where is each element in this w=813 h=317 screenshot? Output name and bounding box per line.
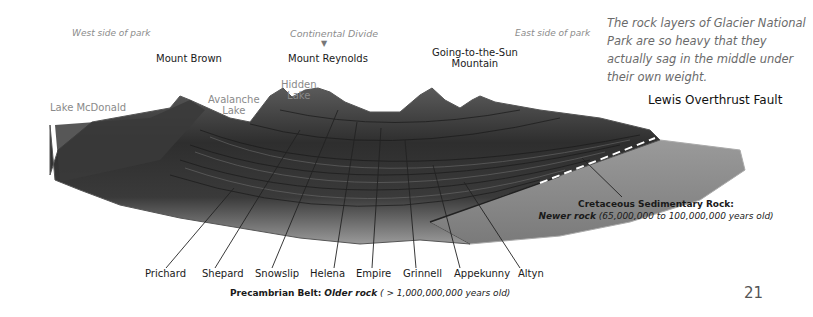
going-to-the-sun-label: Going-to-the-Sun Mountain <box>432 47 518 69</box>
layer-label-helena: Helena <box>310 268 345 279</box>
page-number: 21 <box>744 284 763 302</box>
continental-divide-label: Continental Divide <box>290 28 378 39</box>
cretaceous-description: Cretaceous Sedimentary Rock: Newer rock … <box>526 198 786 222</box>
mount-brown-label: Mount Brown <box>156 53 222 64</box>
avalanche-lake-label: Avalanche Lake <box>208 94 260 116</box>
mount-reynolds-label: Mount Reynolds <box>288 53 368 64</box>
layer-label-altyn: Altyn <box>518 268 544 279</box>
layer-label-grinnell: Grinnell <box>403 268 442 279</box>
west-side-label: West side of park <box>72 28 151 38</box>
caption-text: The rock layers of Glacier National Park… <box>607 14 807 86</box>
lewis-overthrust-fault-label: Lewis Overthrust Fault <box>648 93 782 107</box>
layer-label-empire: Empire <box>356 268 391 279</box>
precambrian-description: Precambrian Belt: Older rock ( > 1,000,0… <box>230 287 510 299</box>
layer-label-snowslip: Snowslip <box>255 268 299 279</box>
layer-label-shepard: Shepard <box>202 268 244 279</box>
hidden-lake-label: Hidden Lake <box>281 79 316 101</box>
divide-marker-icon: ▼ <box>321 39 327 48</box>
layer-label-prichard: Prichard <box>145 268 186 279</box>
layer-label-appekunny: Appekunny <box>454 268 510 279</box>
east-side-label: East side of park <box>515 28 590 38</box>
lake-mcdonald-label: Lake McDonald <box>50 102 126 113</box>
